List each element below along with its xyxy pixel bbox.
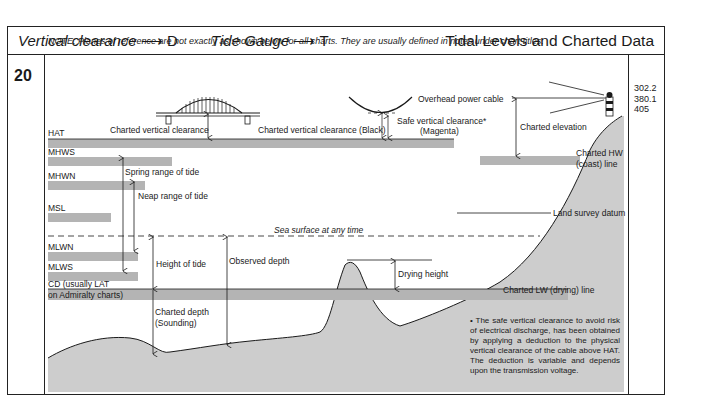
label-sea-surface: Sea surface at any time [274,225,364,235]
mlwn-band [48,252,138,261]
label-land-survey-datum: Land survey datum [553,208,625,218]
label-charted-depth-2: (Sounding) [155,318,197,328]
label-msl: MSL [48,203,66,213]
label-spring-range: Spring range of tide [125,167,199,177]
label-observed-depth: Observed depth [229,256,290,266]
label-charted-vertical-clearance: Charted vertical clearance [110,125,209,135]
hat-band [48,139,454,148]
footnote-text: • The safe vertical clearance to avoid r… [470,316,620,376]
charted-hw-band [480,156,580,165]
msl-band [48,213,111,222]
label-hat: HAT [48,128,64,138]
mhwn-band [48,181,145,190]
label-charted-hw-1: Charted HW [576,148,623,158]
label-safe-vertical-clearance: Safe vertical clearance* [397,116,487,126]
label-cd-1: CD (usually LAT [48,279,109,289]
label-cd-2: on Admiralty charts) [48,290,123,300]
mhws-band [48,157,172,166]
label-mhwn: MHWN [48,171,75,181]
label-mlws: MLWS [48,262,73,272]
label-mhws: MHWS [48,147,75,157]
lighthouse-icon [549,82,613,116]
power-cable-icon [349,97,412,113]
label-overhead-power-cable: Overhead power cable [418,94,504,104]
label-charted-lw-line: Charted LW (drying) line [503,285,595,295]
cd-band [48,289,568,300]
label-charted-depth-1: Charted depth [155,307,209,317]
label-mlwn: MLWN [48,242,73,252]
label-magenta: (Magenta) [420,126,459,136]
label-charted-elevation: Charted elevation [520,122,587,132]
label-charted-vertical-clearance-black: Charted vertical clearance (Black) [258,125,386,135]
label-charted-hw-2: (coast) line [576,159,618,169]
label-height-of-tide: Height of tide [156,259,206,269]
label-neap-range: Neap range of tide [138,191,208,201]
label-drying-height: Drying height [398,269,449,279]
